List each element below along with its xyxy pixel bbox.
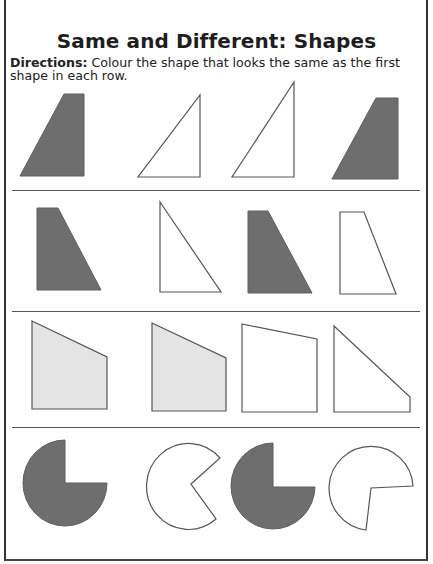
reference-quadrilateral[interactable]	[32, 321, 107, 409]
option-trapezoid-match[interactable]	[248, 211, 312, 293]
option-right-triangle[interactable]	[160, 202, 221, 292]
reference-trapezoid[interactable]	[37, 208, 101, 290]
shapes-canvas	[0, 0, 433, 564]
reference-trapezoid[interactable]	[20, 94, 84, 176]
option-pacman[interactable]	[147, 443, 220, 529]
option-pie-match[interactable]	[231, 443, 315, 529]
reference-pie[interactable]	[23, 440, 107, 526]
row-2	[37, 202, 396, 294]
option-quadrilateral-match[interactable]	[152, 323, 226, 411]
option-right-trapezoid[interactable]	[334, 326, 410, 412]
option-right-triangle[interactable]	[138, 95, 200, 177]
row-3	[32, 321, 410, 412]
row-1	[20, 82, 398, 179]
option-rotated-pie[interactable]	[329, 446, 413, 530]
option-trapezoid-match[interactable]	[332, 98, 398, 179]
option-near-square[interactable]	[242, 324, 317, 412]
option-tall-right-triangle[interactable]	[232, 82, 294, 177]
row-4	[23, 440, 413, 530]
option-narrow-trapezoid[interactable]	[340, 212, 396, 294]
